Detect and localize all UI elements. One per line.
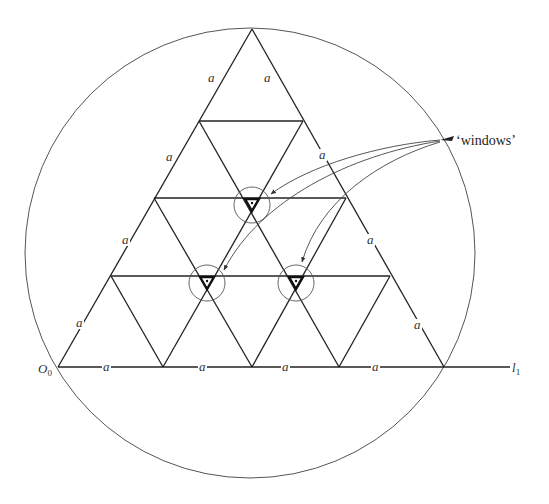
side-length-a-label: a (319, 147, 326, 162)
window-dot (251, 202, 253, 204)
line-subscript: 1 (516, 367, 521, 377)
outer-circle (25, 28, 475, 478)
diagonal-line (111, 276, 163, 367)
diagonal-line (163, 121, 303, 367)
side-length-a-label: a (122, 232, 129, 247)
side-length-a-label: a (166, 149, 173, 164)
diagonal-line (339, 276, 390, 367)
window-dot (206, 280, 208, 282)
side-length-labels: aaaaaaaaaaaa (75, 70, 422, 374)
windows-callout-label: ‘windows’ (456, 133, 516, 148)
side-length-a-label: a (372, 359, 379, 374)
window-circle (278, 265, 314, 301)
side-length-a-label: a (367, 232, 374, 247)
side-length-a-label: a (264, 70, 271, 85)
window-triangle (200, 277, 214, 289)
side-length-a-label: a (282, 359, 289, 374)
origin-subscript: 0 (47, 368, 52, 378)
window-dot (295, 280, 297, 282)
lattice-edges (58, 29, 510, 367)
window-lower-left (189, 265, 225, 301)
side-length-a-label: a (414, 317, 421, 332)
callout-arrow (271, 140, 440, 194)
window-circle (189, 265, 225, 301)
window-lower-right (278, 265, 314, 301)
side-length-a-label: a (208, 70, 215, 85)
side-length-a-label: a (103, 359, 110, 374)
side-length-a-label: a (76, 315, 83, 330)
lattice-diagram: aaaaaaaaaaaa ‘windows’ O0 l1 (0, 0, 549, 504)
windows-group (189, 187, 314, 301)
side-length-a-label: a (199, 359, 206, 374)
line-l1-label: l1 (512, 360, 520, 377)
origin-label: O0 (38, 361, 52, 378)
